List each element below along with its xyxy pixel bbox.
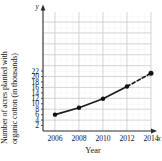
x-axis-title: Year <box>0 146 162 155</box>
x-tick-labels: 2006 2008 2010 2012 2014 <box>47 134 158 143</box>
x-tick-label: 2006 <box>47 134 62 143</box>
y-tick-label: 22 <box>31 67 39 76</box>
chart-plot-area: 2 4 6 8 10 12 14 16 18 20 22 2006 2008 2… <box>0 0 162 161</box>
x-tick-label: 2010 <box>95 134 110 143</box>
data-point-marker <box>53 112 57 116</box>
data-point-marker <box>149 71 154 76</box>
x-tick-label: 2008 <box>71 134 86 143</box>
y-axis-arrow <box>41 5 46 11</box>
y-tick-labels: 2 4 6 8 10 12 14 16 18 20 22 <box>31 67 39 131</box>
data-point-marker <box>125 84 129 88</box>
y-axis-variable-label: y <box>34 3 39 11</box>
data-point-marker <box>77 106 81 110</box>
chart-figure: Number of acres planted with organic cot… <box>0 0 162 161</box>
data-point-marker <box>101 97 105 101</box>
x-axis-variable-label: x <box>156 135 161 143</box>
x-axis-title-text: Year <box>85 146 100 155</box>
x-tick-label: 2012 <box>119 134 134 143</box>
